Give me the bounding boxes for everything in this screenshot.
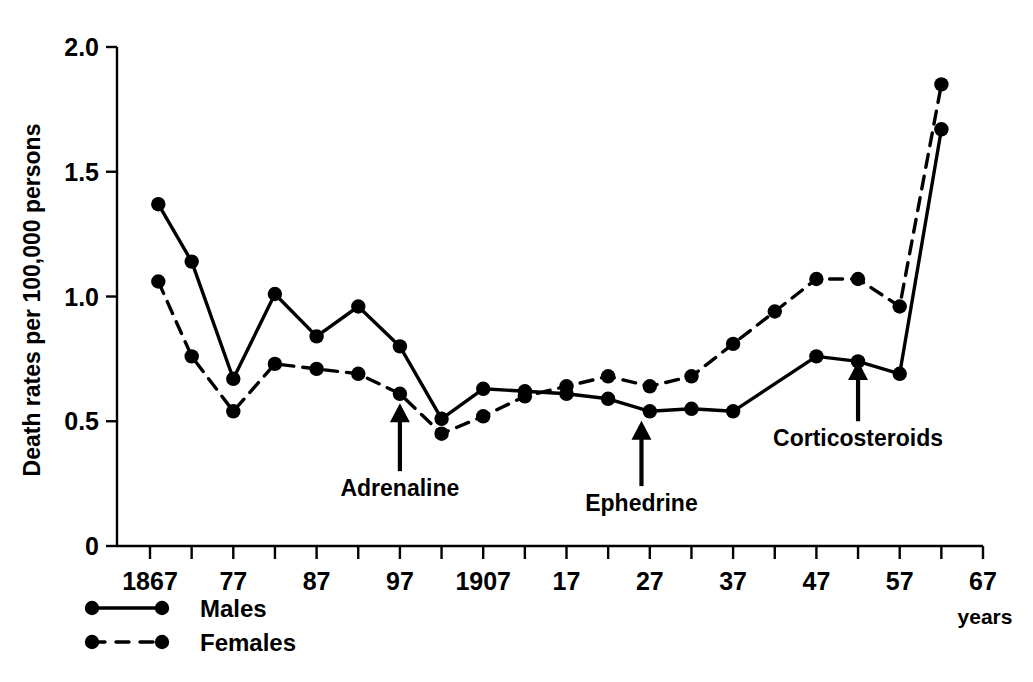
data-point-females <box>309 362 323 376</box>
data-point-females <box>151 274 165 288</box>
annotation-label: Adrenaline <box>340 475 459 501</box>
legend-marker-males <box>85 601 99 615</box>
axes: 00.51.01.52.018677787971907172737475767 <box>64 33 997 595</box>
data-point-females <box>476 409 490 423</box>
y-axis-tick-label: 0.5 <box>64 407 99 435</box>
x-axis-units-label: years <box>958 605 1013 628</box>
annotation-arrow-head <box>390 403 410 422</box>
legend-label-males: Males <box>200 595 267 622</box>
data-point-males <box>643 404 657 418</box>
data-point-males <box>934 122 948 136</box>
data-point-females <box>809 272 823 286</box>
x-axis-tick-label: 1907 <box>455 567 511 595</box>
data-point-males <box>393 339 407 353</box>
data-point-males <box>351 299 365 313</box>
legend-marker-males <box>155 601 169 615</box>
y-axis-tick-label: 0 <box>85 532 99 560</box>
data-point-males <box>726 404 740 418</box>
data-point-males <box>185 254 199 268</box>
data-point-females <box>851 272 865 286</box>
data-point-females <box>684 369 698 383</box>
annotation-arrow-head <box>631 421 651 440</box>
series-line-females <box>158 84 941 433</box>
data-point-females <box>726 337 740 351</box>
x-axis-tick-label: 17 <box>553 567 581 595</box>
data-point-males <box>226 372 240 386</box>
data-point-females <box>643 379 657 393</box>
x-axis-tick-label: 77 <box>219 567 247 595</box>
y-axis-tick-label: 1.5 <box>64 158 99 186</box>
data-point-females <box>226 404 240 418</box>
y-axis-tick-label: 1.0 <box>64 283 99 311</box>
data-point-males <box>151 197 165 211</box>
annotation-label: Ephedrine <box>585 490 697 516</box>
data-point-males <box>476 382 490 396</box>
data-point-females <box>934 77 948 91</box>
series-line-males <box>158 129 941 419</box>
data-point-females <box>393 387 407 401</box>
data-point-females <box>351 367 365 381</box>
legend-marker-females <box>85 635 99 649</box>
y-axis-title: Death rates per 100,000 persons <box>19 124 45 477</box>
data-point-males <box>809 349 823 363</box>
data-point-females <box>434 427 448 441</box>
data-point-females <box>893 299 907 313</box>
x-axis-tick-label: 47 <box>802 567 830 595</box>
data-point-males <box>268 287 282 301</box>
x-axis-tick-label: 97 <box>386 567 414 595</box>
x-axis-tick-label: 37 <box>719 567 747 595</box>
data-point-females <box>768 304 782 318</box>
data-point-females <box>518 389 532 403</box>
x-axis-tick-label: 57 <box>886 567 914 595</box>
chart-legend: MalesFemales <box>85 595 296 656</box>
data-point-females <box>268 357 282 371</box>
line-chart: 00.51.01.52.018677787971907172737475767 … <box>0 0 1033 682</box>
x-axis-tick-label: 67 <box>969 567 997 595</box>
data-point-males <box>601 392 615 406</box>
x-axis-tick-label: 27 <box>636 567 664 595</box>
chart-figure: 00.51.01.52.018677787971907172737475767 … <box>0 0 1033 682</box>
data-point-males <box>684 402 698 416</box>
data-point-females <box>185 349 199 363</box>
x-axis-tick-label: 1867 <box>122 567 178 595</box>
data-point-males <box>434 412 448 426</box>
data-series <box>151 77 949 441</box>
data-point-males <box>893 367 907 381</box>
data-point-females <box>601 369 615 383</box>
y-axis-tick-label: 2.0 <box>64 33 99 61</box>
annotations: AdrenalineEphedrineCorticosteroids <box>340 361 943 516</box>
data-point-females <box>559 379 573 393</box>
x-axis-tick-label: 87 <box>303 567 331 595</box>
legend-label-females: Females <box>200 629 296 656</box>
annotation-label: Corticosteroids <box>773 425 943 451</box>
legend-marker-females <box>155 635 169 649</box>
data-point-males <box>309 329 323 343</box>
